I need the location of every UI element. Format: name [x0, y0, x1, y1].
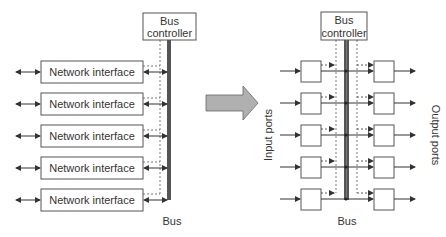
network-interface-label: Network interface	[49, 98, 135, 110]
left-diagram: Bus controller Network interface Network…	[16, 13, 196, 227]
network-interface-row: Network interface	[16, 157, 167, 179]
right-controller-line1: Bus	[335, 14, 354, 26]
network-interface-row: Network interface	[16, 61, 167, 83]
network-interface-row: Network interface	[16, 189, 167, 211]
left-controller-line2: controller	[147, 27, 193, 39]
transform-arrow-icon	[206, 86, 258, 120]
left-bus-label: Bus	[163, 215, 182, 227]
network-interface-row: Network interface	[16, 125, 167, 147]
network-interface-label: Network interface	[49, 194, 135, 206]
network-interface-label: Network interface	[49, 162, 135, 174]
right-controller-line2: controller	[321, 27, 367, 39]
right-diagram: Bus controller Input ports Output ports	[262, 12, 442, 227]
left-bus	[167, 40, 171, 200]
network-interface-label: Network interface	[49, 130, 135, 142]
network-interface-row: Network interface	[16, 93, 167, 115]
right-bus	[344, 40, 349, 200]
left-bus-controller: Bus controller	[143, 13, 196, 40]
input-ports-label: Input ports	[262, 109, 274, 161]
diagram-canvas: Bus controller Network interface Network…	[0, 0, 446, 237]
left-controller-line1: Bus	[160, 15, 179, 27]
right-bus-controller: Bus controller	[321, 12, 367, 40]
output-ports-label: Output ports	[430, 105, 442, 166]
network-interface-label: Network interface	[49, 66, 135, 78]
right-bus-label: Bus	[338, 215, 357, 227]
